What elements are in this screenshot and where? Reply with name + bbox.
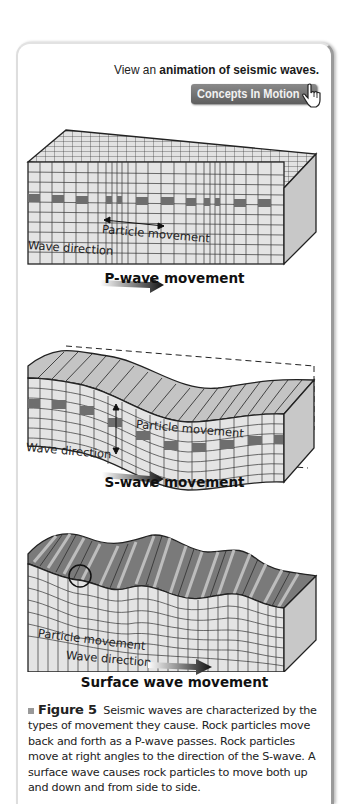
surface-wave-direction-arrow (148, 656, 218, 676)
s-wave-diagram (18, 322, 331, 492)
caption-text: Seismic waves are characterized by the t… (28, 704, 317, 794)
concepts-in-motion-label: Concepts In Motion (197, 84, 300, 104)
hand-pointer-icon (301, 82, 323, 108)
figure-card: View an animation of seismic waves. Conc… (16, 42, 334, 804)
surface-wave-diagram (18, 522, 331, 672)
view-prefix: View an (114, 62, 159, 77)
s-wave-title: S-wave movement (18, 474, 331, 490)
animation-prompt: View an animation of seismic waves. (114, 62, 319, 77)
concepts-in-motion-button[interactable]: Concepts In Motion (191, 84, 317, 104)
surface-wave-title: Surface wave movement (18, 674, 331, 690)
animation-link[interactable]: animation of seismic waves. (159, 62, 319, 77)
figure-caption: Figure 5 Seismic waves are characterized… (28, 702, 324, 795)
p-wave-title: P-wave movement (18, 270, 331, 286)
figure-label: Figure 5 (38, 702, 97, 717)
caption-bullet-icon (28, 708, 34, 714)
